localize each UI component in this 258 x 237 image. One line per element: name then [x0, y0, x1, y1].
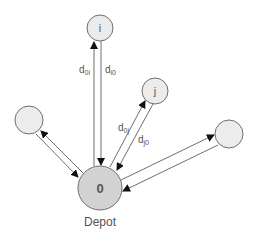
depot-caption: Depot: [84, 215, 117, 229]
edge-label-di0: di0: [105, 64, 116, 76]
diagram-svg: d0i di0 d0j dj0 i j 0 Depot: [0, 0, 258, 237]
node-j: j: [142, 78, 168, 104]
edge-right-to-depot: [123, 145, 218, 191]
edge-depot-to-right: [121, 135, 214, 180]
depot-node-label: 0: [96, 181, 103, 196]
depot-routing-diagram: d0i di0 d0j dj0 i j 0 Depot: [0, 0, 258, 237]
node-i: i: [87, 15, 113, 41]
edge-label-dj0: dj0: [138, 134, 149, 147]
node-i-label: i: [99, 22, 101, 34]
node-left: [15, 106, 43, 134]
edge-depot-to-left: [41, 131, 83, 173]
edge-j-to-depot: [117, 104, 153, 170]
node-depot: 0: [78, 166, 122, 210]
node-j-label: j: [153, 85, 156, 97]
edge-left-to-depot: [36, 134, 78, 177]
edge-label-d0i: d0i: [79, 64, 90, 76]
node-right: [215, 120, 243, 148]
edge-label-d0j: d0j: [118, 122, 129, 135]
